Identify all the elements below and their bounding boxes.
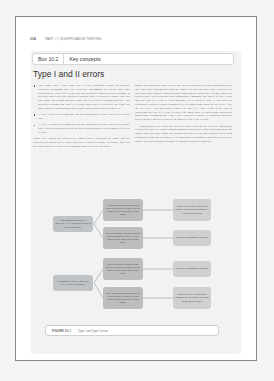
decision-node: The researcher decides that no trend exi… — [103, 227, 143, 249]
body-paragraph: Unfortunately, the errors are not partic… — [135, 125, 232, 144]
figure-label: FIGURE 10.1 — [46, 329, 75, 333]
bullet-paragraph: A Type II error is deciding that the nul… — [33, 123, 130, 134]
running-head: 334 PART 1 | SIGNIFICANCE TESTING — [30, 37, 102, 41]
bullet-paragraph: A Type I error is deciding that the null… — [33, 113, 130, 121]
figure-title: Type I and Type II errors — [75, 329, 108, 333]
box-title: Key concepts — [64, 56, 100, 62]
right-column: simply does not know what is truly the c… — [135, 84, 232, 146]
type-errors-diagram: NO TREND EXISTS in REALITY (i.e. there i… — [31, 197, 241, 317]
section-name: PART 1 | SIGNIFICANCE TESTING — [45, 37, 102, 41]
outcome-node-type1-error: Type I error: The researcher falsely con… — [173, 199, 211, 221]
box-header: Box 10.2 Key concepts — [32, 53, 234, 65]
left-column: The terms Type I error and Type II error… — [33, 84, 130, 151]
box-label: Box 10.2 — [33, 54, 64, 64]
root-node-trend: A TREND EXISTS in REALITY (i.e. in the p… — [53, 275, 93, 291]
root-node-no-trend: NO TREND EXISTS in REALITY (i.e. there i… — [53, 216, 93, 232]
key-concepts-box: Box 10.2 Key concepts Type I and II erro… — [31, 51, 241, 354]
decision-node: The researcher decides that there is a t… — [103, 199, 143, 221]
page-number: 334 — [30, 37, 36, 41]
body-paragraph: Figure 10.1 shows the process by which c… — [33, 137, 130, 148]
body-paragraph: simply does not know what is truly the c… — [135, 84, 232, 122]
decision-node: The researcher decides that no trend exi… — [103, 287, 143, 309]
outcome-node-correct: This is a CORRECT decision — [173, 261, 211, 277]
bullet-paragraph: The terms Type I error and Type II error… — [33, 84, 130, 111]
outcome-node-type2-error: This is a Type II error (see Chapter 39 … — [173, 287, 211, 309]
decision-node: The researcher decides that there is a t… — [103, 258, 143, 280]
outcome-node-correct: This is a CORRECT decision — [173, 230, 211, 246]
figure-caption: FIGURE 10.1 Type I and Type II errors — [45, 325, 219, 336]
section-title: Type I and II errors — [33, 69, 104, 79]
